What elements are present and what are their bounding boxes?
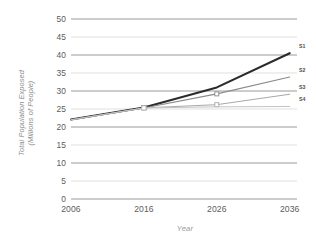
x-tick-label: 2026 <box>195 204 239 214</box>
series-label-s2: S2 <box>299 67 306 73</box>
y-tick-label: 35 <box>42 68 66 78</box>
series-marker-s4 <box>142 106 146 110</box>
y-tick-label: 5 <box>42 176 66 186</box>
y-tick-label: 20 <box>42 122 66 132</box>
series-line-s1 <box>71 53 290 119</box>
y-tick-label: 10 <box>42 158 66 168</box>
x-tick-label: 2006 <box>49 204 93 214</box>
x-tick-label: 2016 <box>122 204 166 214</box>
y-tick-label: 0 <box>42 194 66 204</box>
series-label-s3: S3 <box>299 84 306 90</box>
y-tick-label: 45 <box>42 32 66 42</box>
y-tick-label: 15 <box>42 140 66 150</box>
x-tick-label: 2036 <box>268 204 312 214</box>
y-tick-label: 50 <box>42 14 66 24</box>
series-marker-s3 <box>215 103 219 107</box>
series-label-s4: S4 <box>299 96 306 102</box>
y-tick-label: 40 <box>42 50 66 60</box>
series-label-s1: S1 <box>299 43 306 49</box>
line-chart: Total Population Exposed (Millions of Pe… <box>0 0 316 242</box>
y-tick-label: 25 <box>42 104 66 114</box>
y-tick-label: 30 <box>42 86 66 96</box>
series-marker-s2 <box>215 92 219 96</box>
